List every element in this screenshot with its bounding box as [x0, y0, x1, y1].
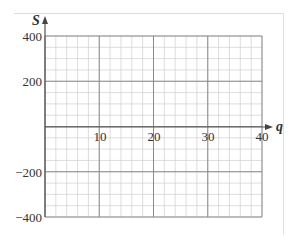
x-tick-30: 30	[202, 129, 215, 144]
x-axis-label: q	[276, 119, 283, 134]
y-tick-neg400: −400	[15, 210, 42, 225]
y-tick-400: 400	[23, 29, 43, 44]
y-axis-arrow-icon	[42, 16, 48, 24]
x-tick-10: 10	[94, 129, 107, 144]
x-tick-20: 20	[148, 129, 161, 144]
axes	[42, 16, 273, 217]
x-tick-40: 40	[256, 129, 269, 144]
y-axis-label: S	[32, 13, 40, 28]
chart-canvas: S q 400 200 −200 −400 10 20 30 40	[0, 0, 297, 243]
y-tick-200: 200	[23, 74, 43, 89]
y-tick-neg200: −200	[15, 165, 42, 180]
